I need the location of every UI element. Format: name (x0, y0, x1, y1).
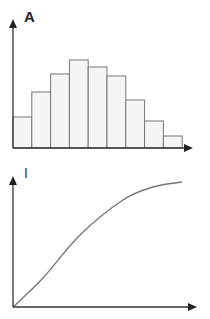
figure: A I (0, 0, 210, 319)
curve-chart (0, 0, 210, 319)
x-axis-arrow-icon (188, 303, 197, 311)
y-axis-arrow-icon (9, 176, 17, 185)
curve-line (13, 182, 182, 307)
